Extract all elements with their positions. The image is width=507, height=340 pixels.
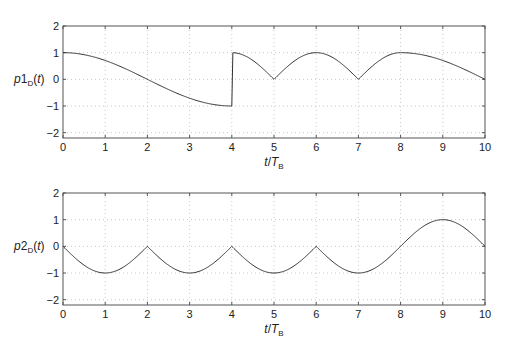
y-tick-label: 1: [53, 47, 59, 59]
y-tick-label: −1: [46, 267, 59, 279]
x-tick-label: 7: [355, 141, 361, 153]
x-tick-label: 2: [144, 141, 150, 153]
y-tick-label: 2: [53, 20, 59, 32]
x-axis-label: t/TB: [264, 322, 283, 338]
y-axis-label: p1D(t): [13, 72, 45, 88]
x-tick-label: 4: [229, 141, 235, 153]
y-tick-label: −2: [46, 294, 59, 306]
subplot-1: 012345678910210−1−2p1D(t)t/TB: [13, 20, 491, 171]
y-axis-label: p2D(t): [13, 239, 45, 255]
x-tick-label: 3: [187, 308, 193, 320]
x-tick-label: 10: [479, 141, 491, 153]
y-tick-label: 0: [53, 73, 59, 85]
x-tick-label: 1: [102, 308, 108, 320]
x-tick-label: 4: [229, 308, 235, 320]
grid: [63, 26, 485, 138]
x-tick-label: 7: [355, 308, 361, 320]
x-tick-label: 2: [144, 308, 150, 320]
y-tick-label: 1: [53, 214, 59, 226]
chart-figure: 012345678910210−1−2p1D(t)t/TB01234567891…: [0, 0, 507, 340]
x-tick-label: 5: [271, 141, 277, 153]
x-tick-label: 8: [398, 308, 404, 320]
x-tick-label: 1: [102, 141, 108, 153]
y-tick-label: 2: [53, 187, 59, 199]
x-tick-label: 3: [187, 141, 193, 153]
y-tick-label: 0: [53, 240, 59, 252]
y-tick-label: −1: [46, 100, 59, 112]
x-tick-label: 9: [440, 308, 446, 320]
x-tick-label: 6: [313, 308, 319, 320]
y-tick-label: −2: [46, 127, 59, 139]
x-tick-label: 5: [271, 308, 277, 320]
x-axis-label: t/TB: [264, 155, 283, 171]
x-tick-label: 6: [313, 141, 319, 153]
x-tick-label: 0: [60, 308, 66, 320]
x-tick-label: 0: [60, 141, 66, 153]
subplot-2: 012345678910210−1−2p2D(t)t/TB: [13, 187, 491, 338]
x-tick-label: 10: [479, 308, 491, 320]
grid: [63, 193, 485, 305]
x-tick-label: 8: [398, 141, 404, 153]
x-tick-label: 9: [440, 141, 446, 153]
